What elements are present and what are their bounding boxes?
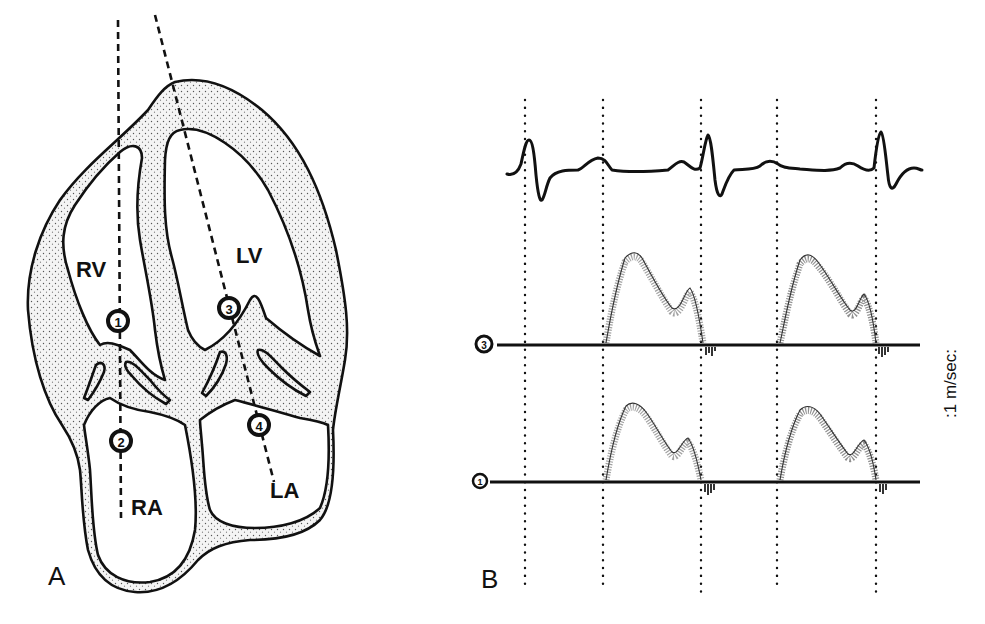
trace-label-1: 1: [473, 474, 487, 488]
svg-text:2: 2: [117, 435, 124, 450]
doppler-envelope-site3-beat2: [780, 255, 876, 343]
doppler-panel: 3 1 :1 m/sec: B: [473, 100, 960, 594]
sample-site-2: 2: [111, 431, 131, 451]
svg-text:3: 3: [481, 340, 487, 351]
velocity-scale-label: :1 m/sec:: [941, 349, 960, 418]
svg-text:1: 1: [114, 315, 121, 330]
panel-label-b: B: [481, 564, 498, 594]
sample-site-3: 3: [219, 298, 239, 318]
sample-site-1: 1: [108, 311, 128, 331]
trace-label-3: 3: [476, 336, 492, 352]
doppler-flow-site1-beat1: [606, 407, 701, 480]
heart-diagram: RV LV RA LA 1 2 3 4 A: [28, 15, 347, 592]
ra-cavity: [84, 398, 196, 583]
svg-text:1: 1: [477, 477, 482, 487]
label-la: LA: [270, 478, 299, 503]
panel-label-a: A: [48, 561, 66, 591]
doppler-reverse-site1-beat2: [880, 484, 886, 494]
label-lv: LV: [236, 243, 263, 268]
doppler-reverse-site3-beat1: [706, 347, 715, 356]
label-rv: RV: [76, 257, 106, 282]
label-ra: RA: [131, 495, 163, 520]
ecg-trace: [507, 132, 922, 200]
doppler-reverse-site1-beat1: [705, 484, 714, 495]
svg-text:3: 3: [225, 302, 232, 317]
svg-text:4: 4: [255, 419, 263, 434]
doppler-flow-site3-beat2: [780, 259, 876, 343]
doppler-flow-site3-beat1: [606, 257, 703, 343]
doppler-reverse-site3-beat2: [879, 347, 888, 357]
figure-canvas: RV LV RA LA 1 2 3 4 A: [0, 0, 985, 624]
sample-site-4: 4: [249, 415, 269, 435]
doppler-flow-site1-beat2: [780, 411, 876, 480]
